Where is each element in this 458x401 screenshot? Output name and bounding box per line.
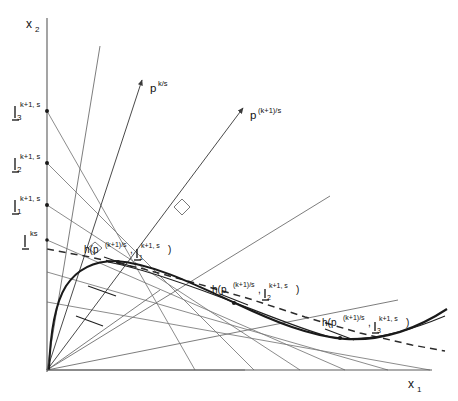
y-axis-label-sub: 2 bbox=[35, 25, 40, 34]
diagram-svg: x 2 x 1 p k/s p (k+1)/s 3 k+1, s 2 k+1, … bbox=[0, 0, 458, 401]
lambda-2-sup: k+1, s bbox=[20, 152, 40, 161]
price-ray-k-plus-1-label-base: p bbox=[250, 109, 256, 121]
h-solution-2-suffix: ) bbox=[296, 284, 299, 295]
x-axis-label-sub: 1 bbox=[417, 385, 422, 394]
y-axis-label-base: x bbox=[26, 17, 32, 31]
origin-ray-4 bbox=[47, 300, 398, 370]
y-axis-label: x 2 bbox=[26, 17, 40, 34]
price-ray-k-plus-1-label-sup: (k+1)/s bbox=[258, 106, 281, 115]
whisker-1 bbox=[76, 316, 103, 326]
h-solution-2-comma: , bbox=[258, 284, 261, 295]
h-solution-3-suffix: ) bbox=[406, 317, 409, 328]
lambda-1-sub: 1 bbox=[17, 207, 22, 216]
budget-line-4 bbox=[47, 240, 345, 370]
x-axis-label: x 1 bbox=[408, 377, 422, 394]
lambda-label-3: 3 k+1, s bbox=[12, 100, 40, 122]
node-lambda-ks bbox=[45, 238, 49, 242]
node-lambda-1 bbox=[45, 203, 49, 207]
figure-canvas: x 2 x 1 p k/s p (k+1)/s 3 k+1, s 2 k+1, … bbox=[0, 0, 458, 401]
h-solution-3-sup: (k+1)/s bbox=[343, 314, 365, 322]
lambda-2-sub: 2 bbox=[17, 165, 22, 174]
solution-point-3 bbox=[338, 336, 342, 340]
lambda-label-ks: ks bbox=[22, 229, 38, 249]
node-lambda-2 bbox=[45, 161, 49, 165]
h-solution-2-sup: (k+1)/s bbox=[233, 281, 255, 289]
price-ray-k-label-sup: k/s bbox=[158, 79, 168, 88]
perpendicular-marks-group bbox=[88, 199, 190, 254]
lambda-3-sub: 3 bbox=[17, 113, 22, 122]
price-rays-group bbox=[47, 80, 243, 370]
h-solution-3-label: h(p (k+1)/s , 3 k+1, s ) bbox=[322, 314, 409, 334]
price-ray-k bbox=[47, 80, 142, 370]
h-solution-3-prefix: h(p bbox=[322, 317, 337, 328]
solution-point-1 bbox=[116, 260, 120, 264]
lambda-3-sup: k+1, s bbox=[20, 100, 40, 109]
origin-ray-6 bbox=[47, 290, 160, 370]
h-solution-1-lambda-sub: 1 bbox=[139, 254, 143, 261]
h-solution-1-sup: (k+1)/s bbox=[105, 241, 127, 249]
h-solution-1-lambda-sup: k+1, s bbox=[141, 242, 160, 249]
price-ray-k-plus-1 bbox=[47, 108, 243, 370]
lambda-ks-sup: ks bbox=[30, 229, 38, 238]
price-ray-k-plus-1-label: p (k+1)/s bbox=[250, 106, 281, 121]
h-solution-3-comma: , bbox=[368, 317, 371, 328]
h-solution-1-comma: , bbox=[130, 244, 133, 255]
price-ray-k-label-base: p bbox=[150, 82, 156, 94]
h-solution-3-lambda-sub: 3 bbox=[377, 327, 381, 334]
lambda-1-sup: k+1, s bbox=[20, 194, 40, 203]
h-solution-1-suffix: ) bbox=[168, 244, 171, 255]
perp-mark-upper bbox=[174, 199, 190, 215]
lambda-label-1: 1 k+1, s bbox=[12, 194, 40, 216]
price-ray-k-label: p k/s bbox=[150, 79, 168, 94]
h-solution-3-lambda-sup: k+1, s bbox=[379, 315, 398, 322]
h-solution-2-prefix: h(p bbox=[212, 284, 227, 295]
x-axis-label-base: x bbox=[408, 377, 414, 391]
node-lambda-3 bbox=[45, 109, 49, 113]
h-solution-2-lambda-sub: 2 bbox=[267, 294, 271, 301]
solution-point-2 bbox=[232, 301, 236, 305]
tangent-whiskers-group bbox=[76, 257, 354, 340]
h-solution-2-lambda-sup: k+1, s bbox=[269, 282, 288, 289]
lambda-label-2: 2 k+1, s bbox=[12, 152, 40, 174]
budget-line-3 bbox=[47, 205, 300, 370]
h-solution-1-prefix: h(p bbox=[84, 244, 99, 255]
budget-line-2 bbox=[47, 163, 254, 370]
